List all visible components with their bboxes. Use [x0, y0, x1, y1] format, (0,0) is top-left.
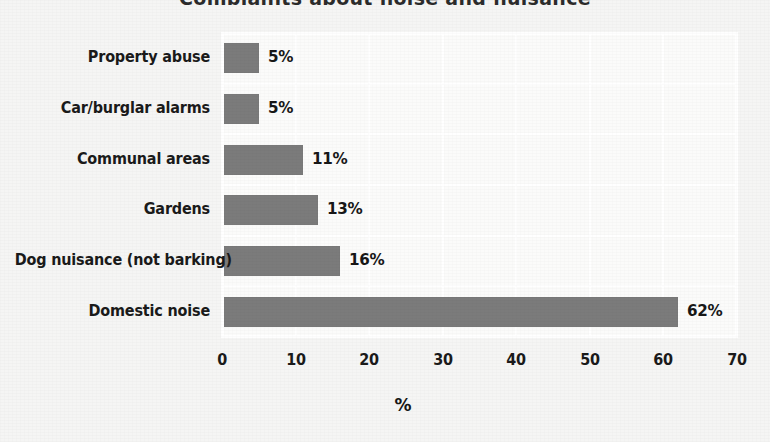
gridline-horizontal: [222, 133, 737, 135]
bar: [222, 195, 318, 225]
bar: [222, 297, 678, 327]
value-label: 13%: [327, 199, 363, 218]
x-tick-label: 10: [269, 350, 323, 369]
value-label: 5%: [268, 98, 293, 117]
x-tick-label: 60: [636, 350, 690, 369]
x-tick-label: 70: [710, 350, 764, 369]
category-label: Dog nuisance (not barking): [15, 251, 210, 269]
gridline-horizontal: [222, 285, 737, 287]
category-label: Car/burglar alarms: [15, 99, 210, 117]
category-label: Gardens: [15, 200, 210, 218]
gridline-horizontal: [222, 235, 737, 237]
bar: [222, 246, 340, 276]
x-tick-label: 20: [342, 350, 396, 369]
category-label: Domestic noise: [15, 302, 210, 320]
x-tick-label: 0: [195, 350, 249, 369]
value-label: 62%: [687, 301, 723, 320]
x-tick-label: 50: [563, 350, 617, 369]
gridline-horizontal: [222, 184, 737, 186]
bar: [222, 145, 303, 175]
category-label: Property abuse: [15, 48, 210, 66]
chart-title: Complaints about noise and nuisance: [0, 0, 770, 5]
bar-chart-figure: Complaints about noise and nuisance Prop…: [0, 0, 770, 442]
gridline-horizontal: [222, 83, 737, 85]
plot-area: [222, 33, 737, 337]
category-label: Communal areas: [15, 150, 210, 168]
bar: [222, 94, 259, 124]
bar: [222, 43, 259, 73]
x-tick-label: 30: [416, 350, 470, 369]
value-label: 11%: [312, 149, 348, 168]
x-axis-title: %: [0, 395, 770, 415]
x-tick-label: 40: [489, 350, 543, 369]
value-label: 16%: [349, 250, 385, 269]
value-label: 5%: [268, 47, 293, 66]
